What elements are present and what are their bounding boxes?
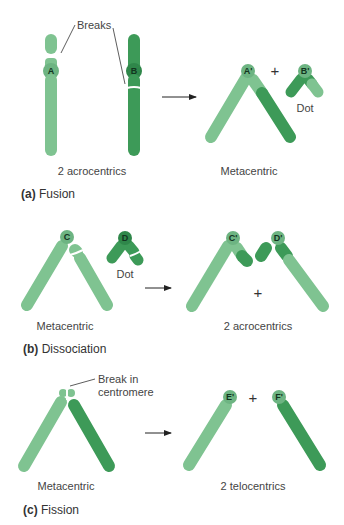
dot-chromosome-d: D (112, 231, 141, 260)
centromere-label-c: C (64, 232, 71, 242)
metacentric-c: C (27, 230, 107, 305)
centromere-label-a-prime: A' (244, 66, 253, 76)
caption-fission: (c) Fission (23, 503, 79, 517)
breaks-label: Breaks (77, 19, 112, 31)
centromere-label-f-prime: F' (275, 392, 283, 402)
panel-fusion: A B Breaks 2 acrocentrics A' + B' Dot Me… (21, 19, 318, 201)
centromere-label-c-prime: C' (229, 233, 238, 243)
dot-label-fusion: Dot (296, 102, 313, 114)
telocentric-f-prime: F' (272, 390, 320, 465)
dot-chromosome-b-prime: B' (291, 64, 318, 92)
caption-fusion: (a) Fusion (21, 187, 75, 201)
after-label-telocentrics: 2 telocentrics (221, 480, 286, 492)
before-label-acrocentrics: 2 acrocentrics (58, 165, 127, 177)
dot-label-dissociation: Dot (116, 268, 133, 280)
after-label-metacentric: Metacentric (221, 165, 278, 177)
centromere-label-b-prime: B' (301, 66, 310, 76)
break-pointer-centromere (70, 379, 95, 386)
chromosome-b (126, 34, 142, 156)
before-label-metacentric-fission: Metacentric (38, 480, 95, 492)
metacentric-fission (24, 388, 109, 466)
plus-sign-dissociation: + (254, 284, 263, 301)
centromere-label-d-prime: D' (274, 233, 283, 243)
break-in-centromere-label-1: Break in (98, 373, 138, 385)
acrocentric-d-prime: D' (261, 231, 323, 306)
before-label-metacentric: Metacentric (37, 320, 94, 332)
centromere-label-a: A (48, 66, 55, 76)
acrocentric-c-prime: C' (192, 231, 247, 306)
centromere-label-d: D (122, 233, 129, 243)
panel-fission: Break in centromere Metacentric E' + F' … (23, 373, 320, 517)
break-pointer-b (113, 28, 125, 84)
centromere-label-e-prime: E' (226, 392, 234, 402)
panel-dissociation: C D Dot Metacentric C' D' (23, 230, 323, 356)
chromosome-rearrangement-diagram: A B Breaks 2 acrocentrics A' + B' Dot Me… (0, 0, 344, 525)
after-label-acrocentrics: 2 acrocentrics (224, 320, 293, 332)
break-pointer-a (61, 25, 75, 53)
chromosome-a (43, 34, 59, 156)
caption-dissociation: (b) Dissociation (23, 342, 106, 356)
telocentric-e-prime: E' (189, 390, 237, 465)
plus-sign-fusion: + (271, 62, 280, 79)
plus-sign-fission: + (249, 389, 258, 406)
break-in-centromere-label-2: centromere (98, 386, 154, 398)
centromere-label-b: B (131, 66, 138, 76)
